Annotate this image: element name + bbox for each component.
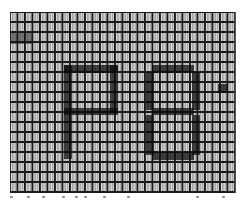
top-left-dark-smudge: [10, 32, 32, 44]
partial-glyph-mark: [218, 84, 228, 93]
lcd-pixel-grid: [10, 12, 236, 193]
bottom-edge-marks: [0, 194, 243, 200]
right-edge-fade: [233, 12, 243, 193]
